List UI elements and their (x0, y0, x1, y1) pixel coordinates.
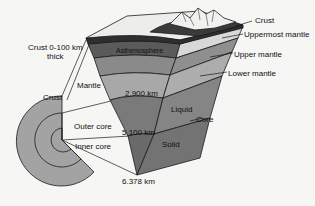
inner-core-label: Inner core (75, 142, 111, 151)
lower-mantle-label: Lower mantle (228, 69, 276, 78)
crust-thickness-label: Crust 0-100 km thick (28, 43, 83, 61)
crust-right-label: Crust (255, 16, 274, 25)
mantle-label: Mantle (77, 81, 101, 90)
liquid-label: Liquid (171, 105, 192, 114)
crust-thickness-line1: Crust 0-100 km (28, 43, 83, 52)
depth-6378-label: 6.378 km (122, 177, 155, 186)
depth-5100-label: 5,100 km (122, 128, 155, 137)
solid-label: Solid (162, 140, 180, 149)
crust-thickness-line2: thick (28, 52, 83, 61)
globe-cutaway (16, 96, 94, 186)
core-label: Core (196, 115, 213, 124)
upper-mantle-label: Upper mantle (234, 50, 282, 59)
uppermost-mantle-label: Uppermost mantle (244, 30, 309, 39)
depth-2900-label: 2,900 km (125, 89, 158, 98)
asthenosphere-label: Asthenosphere (116, 46, 163, 55)
outer-core-label: Outer core (74, 122, 112, 131)
crust-left-label: Crust (43, 93, 62, 102)
